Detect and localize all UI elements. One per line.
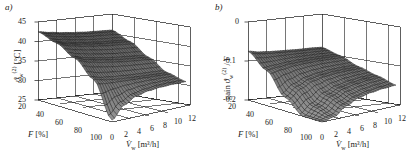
panel-a-ztick-marks bbox=[35, 22, 39, 100]
panel-a-ztick-0: 45 bbox=[18, 17, 26, 26]
panel-b-ytick-0: 0 bbox=[320, 133, 324, 142]
panel-a-ytick-4: 8 bbox=[163, 121, 167, 130]
panel-b-xtick-4: 100 bbox=[300, 133, 312, 142]
panel-b-xtick-2: 60 bbox=[265, 118, 273, 127]
panel-a-xaxis-label: F [%] bbox=[28, 129, 48, 139]
panel-b-xtick-0: 20 bbox=[228, 102, 236, 111]
panel-b-ytick-4: 8 bbox=[373, 121, 377, 130]
panel-b-ztick-0: 0 bbox=[235, 17, 239, 26]
panel-a-ytick-1: 2 bbox=[124, 130, 128, 139]
panel-a-ytick-5: 10 bbox=[174, 117, 182, 126]
panel-a: a) ϑw(2) [°C] bbox=[0, 0, 210, 153]
panel-a-ytick-6: 12 bbox=[188, 114, 196, 123]
panel-a-xtick-1: 40 bbox=[36, 110, 44, 119]
panel-b-ytick-6: 12 bbox=[398, 114, 406, 123]
panel-a-ytick-0: 0 bbox=[110, 133, 114, 142]
panel-a-xtick-2: 60 bbox=[55, 118, 63, 127]
panel-a-xtick-3: 80 bbox=[74, 126, 82, 135]
panel-a-xaxis-unit: [%] bbox=[35, 129, 48, 139]
panel-a-yaxis-sub: w bbox=[131, 145, 135, 151]
panel-b-ytick-3: 6 bbox=[360, 124, 364, 133]
panel-a-yaxis-unit: [m³/h] bbox=[138, 139, 159, 149]
panel-b-ytick-1: 2 bbox=[334, 130, 338, 139]
panel-b-ztick-1: -0.1 bbox=[223, 56, 236, 65]
panel-b-xaxis-sym: F bbox=[238, 129, 243, 139]
panel-a-yaxis-label: V̇w [m³/h] bbox=[126, 139, 159, 151]
panel-b-xtick-3: 80 bbox=[284, 126, 292, 135]
panel-b: b) gain ϑw(2) / F bbox=[210, 0, 420, 153]
figure-root: a) ϑw(2) [°C] bbox=[0, 0, 420, 153]
panel-b-ztick-marks bbox=[245, 22, 249, 100]
panel-b-ytick-5: 10 bbox=[384, 117, 392, 126]
panel-a-ztick-1: 40 bbox=[18, 37, 26, 46]
panel-b-yaxis-sub: w bbox=[341, 145, 345, 151]
panel-b-yaxis-unit: [m³/h] bbox=[348, 139, 369, 149]
panel-a-xtick-0: 20 bbox=[18, 102, 26, 111]
panel-a-xtick-4: 100 bbox=[90, 133, 102, 142]
panel-b-xtick-1: 40 bbox=[246, 110, 254, 119]
panel-b-ytick-2: 4 bbox=[347, 127, 351, 136]
panel-a-ztick-2: 35 bbox=[18, 56, 26, 65]
panel-b-yaxis-label: V̇w [m³/h] bbox=[336, 139, 369, 151]
panel-a-xaxis-sym: F bbox=[28, 129, 33, 139]
panel-a-ztick-3: 30 bbox=[18, 76, 26, 85]
panel-a-ytick-2: 4 bbox=[137, 127, 141, 136]
panel-a-ytick-3: 6 bbox=[150, 124, 154, 133]
panel-b-xaxis-unit: [%] bbox=[245, 129, 258, 139]
panel-b-xaxis-label: F [%] bbox=[238, 129, 258, 139]
